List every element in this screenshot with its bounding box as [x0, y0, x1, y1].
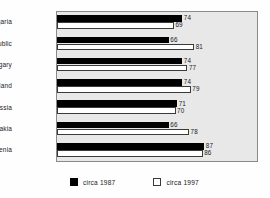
bar-1997 — [57, 22, 174, 29]
bar-1987 — [57, 143, 204, 150]
chart-legend: circa 1987 circa 1997 — [56, 174, 258, 190]
bar-1997 — [57, 44, 194, 51]
category-label: Russia — [0, 104, 12, 111]
bar-group: Slovenia8786 — [0, 140, 270, 162]
white-square-icon — [153, 178, 161, 186]
bar-1997 — [57, 86, 191, 93]
category-label: Bulgaria — [0, 18, 12, 25]
bar-value-label: 74 — [184, 14, 191, 21]
bar-1997 — [57, 150, 203, 157]
bar-1987 — [57, 100, 177, 107]
bar-value-label: 77 — [189, 64, 196, 71]
bar-value-label: 69 — [175, 21, 182, 28]
legend-item-1987: circa 1987 — [70, 178, 115, 186]
category-label: Poland — [0, 82, 12, 89]
category-label: Slovakia — [0, 125, 12, 132]
bar-value-label: 81 — [196, 43, 203, 50]
black-square-icon — [70, 178, 78, 186]
bar-group: Hungary7477 — [0, 55, 270, 77]
bar-1997 — [57, 65, 187, 72]
bar-value-label: 66 — [170, 36, 177, 43]
bar-1987 — [57, 37, 169, 44]
bar-value-label: 78 — [191, 128, 198, 135]
bar-group: Poland7479 — [0, 76, 270, 98]
bar-value-label: 79 — [192, 85, 199, 92]
bar-value-label: 66 — [170, 121, 177, 128]
category-label: Czech Republic — [0, 40, 12, 47]
bar-value-label: 71 — [179, 100, 186, 107]
bar-1987 — [57, 58, 182, 65]
legend-label-1997: circa 1997 — [166, 179, 198, 186]
bar-1987 — [57, 122, 169, 129]
legend-label-1987: circa 1987 — [83, 179, 115, 186]
bar-1997 — [57, 129, 189, 136]
bar-value-label: 86 — [204, 149, 211, 156]
bar-chart: Bulgaria7469Czech Republic6681Hungary747… — [0, 0, 270, 198]
bar-1997 — [57, 107, 176, 114]
bar-group: Czech Republic6681 — [0, 33, 270, 55]
bar-group: Russia7170 — [0, 97, 270, 119]
bar-value-label: 74 — [184, 78, 191, 85]
bar-value-label: 87 — [206, 142, 213, 149]
bar-group: Slovakia6678 — [0, 118, 270, 140]
bar-value-label: 74 — [184, 57, 191, 64]
category-label: Hungary — [0, 61, 12, 68]
bar-group: Bulgaria7469 — [0, 12, 270, 34]
category-label: Slovenia — [0, 146, 12, 153]
bar-1987 — [57, 15, 182, 22]
legend-item-1997: circa 1997 — [153, 178, 198, 186]
bar-1987 — [57, 79, 182, 86]
bar-value-label: 70 — [177, 107, 184, 114]
